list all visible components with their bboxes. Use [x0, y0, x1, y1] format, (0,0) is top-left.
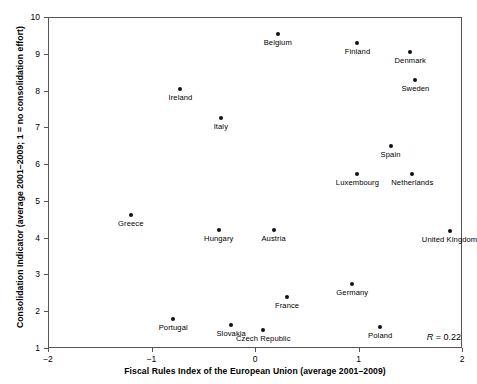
data-point-label: Netherlands: [391, 178, 433, 187]
data-point[interactable]: [219, 116, 223, 120]
data-point-label: United Kingdom: [422, 235, 477, 244]
y-tick-mark: [44, 274, 48, 275]
data-point[interactable]: [355, 41, 359, 45]
data-point[interactable]: [178, 87, 182, 91]
data-point-label: France: [275, 301, 299, 310]
data-point-label: Hungary: [204, 234, 233, 243]
correlation-symbol: R: [427, 332, 434, 342]
x-tick-mark: [152, 348, 153, 352]
data-point[interactable]: [413, 78, 417, 82]
data-point-label: Ireland: [169, 93, 193, 102]
x-axis-label: Fiscal Rules Index of the European Union…: [48, 366, 462, 376]
y-tick-mark: [44, 127, 48, 128]
correlation-value: = 0.22: [436, 332, 461, 342]
data-point-label: Poland: [368, 331, 392, 340]
x-tick-label: 1: [344, 354, 374, 364]
y-tick-mark: [44, 238, 48, 239]
data-point[interactable]: [355, 172, 359, 176]
y-tick-mark: [44, 348, 48, 349]
y-tick-mark: [44, 91, 48, 92]
x-tick-label: −2: [33, 354, 63, 364]
y-axis-label: Consolidation Indicator (average 2001–20…: [15, 7, 25, 347]
data-point-label: Luxembourg: [336, 178, 379, 187]
data-point[interactable]: [129, 213, 133, 217]
data-point-label: Czech Republic: [236, 334, 291, 343]
data-point-label: Denmark: [394, 56, 426, 65]
data-point[interactable]: [350, 282, 354, 286]
plot-frame-top: [48, 17, 462, 18]
data-point-label: Greece: [118, 219, 144, 228]
data-point[interactable]: [378, 325, 382, 329]
data-point[interactable]: [389, 144, 393, 148]
data-point[interactable]: [272, 228, 276, 232]
data-point-label: Sweden: [401, 84, 429, 93]
plot-frame-right: [461, 17, 462, 348]
data-point-label: Spain: [381, 150, 401, 159]
data-point[interactable]: [229, 323, 233, 327]
x-tick-label: −1: [137, 354, 167, 364]
x-tick-label: 2: [447, 354, 477, 364]
x-tick-mark: [48, 348, 49, 352]
y-tick-mark: [44, 17, 48, 18]
x-tick-mark: [462, 348, 463, 352]
data-point[interactable]: [408, 50, 412, 54]
y-tick-mark: [44, 201, 48, 202]
data-point[interactable]: [276, 32, 280, 36]
data-point[interactable]: [171, 317, 175, 321]
data-point[interactable]: [285, 295, 289, 299]
data-point[interactable]: [261, 328, 265, 332]
data-point-label: Germany: [336, 288, 368, 297]
y-tick-mark: [44, 164, 48, 165]
correlation-annotation: R = 0.22: [427, 332, 461, 342]
data-point-label: Belgium: [264, 38, 292, 47]
x-tick-mark: [359, 348, 360, 352]
x-tick-label: 0: [240, 354, 270, 364]
data-point-label: Italy: [214, 122, 228, 131]
y-tick-mark: [44, 311, 48, 312]
data-point-label: Portugal: [159, 323, 188, 332]
data-point-label: Finland: [345, 47, 371, 56]
data-point[interactable]: [448, 229, 452, 233]
data-point[interactable]: [410, 172, 414, 176]
y-tick-mark: [44, 54, 48, 55]
x-tick-mark: [255, 348, 256, 352]
data-point-label: Austria: [261, 234, 285, 243]
data-point[interactable]: [217, 228, 221, 232]
